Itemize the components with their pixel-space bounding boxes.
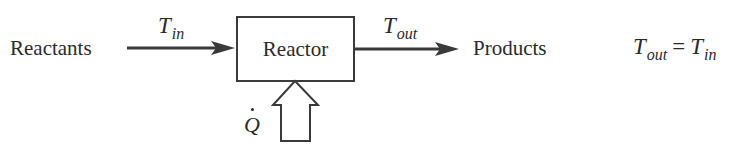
inlet-arrow-icon bbox=[127, 41, 235, 55]
equation-rhs-symbol: T bbox=[690, 34, 703, 59]
equation-operator: = bbox=[672, 34, 685, 59]
outlet-arrow-icon bbox=[353, 42, 459, 56]
inlet-temperature-label: Tin bbox=[158, 14, 184, 37]
outlet-temperature-symbol: T bbox=[383, 13, 396, 38]
reactor-diagram: Reactants Tin Reactor Tout Products Q To… bbox=[0, 0, 739, 152]
diagram-connectors bbox=[0, 0, 739, 152]
inlet-temperature-symbol: T bbox=[158, 13, 171, 38]
heat-rate-symbol: Q bbox=[244, 114, 260, 136]
temperature-equation: Tout=Tin bbox=[633, 35, 716, 58]
equation-rhs-subscript: in bbox=[704, 46, 716, 63]
reactor-box: Reactor bbox=[236, 16, 355, 82]
products-label: Products bbox=[473, 38, 547, 59]
time-derivative-dot-icon bbox=[251, 108, 254, 111]
heat-rate-label: Q bbox=[243, 108, 261, 134]
heat-input-arrow-icon bbox=[273, 81, 318, 141]
outlet-temperature-subscript: out bbox=[397, 25, 417, 42]
equation-lhs-symbol: T bbox=[633, 34, 646, 59]
reactor-label: Reactor bbox=[263, 39, 328, 60]
reactants-label: Reactants bbox=[10, 38, 92, 59]
outlet-temperature-label: Tout bbox=[383, 14, 417, 37]
inlet-temperature-subscript: in bbox=[172, 25, 184, 42]
equation-lhs-subscript: out bbox=[647, 46, 667, 63]
